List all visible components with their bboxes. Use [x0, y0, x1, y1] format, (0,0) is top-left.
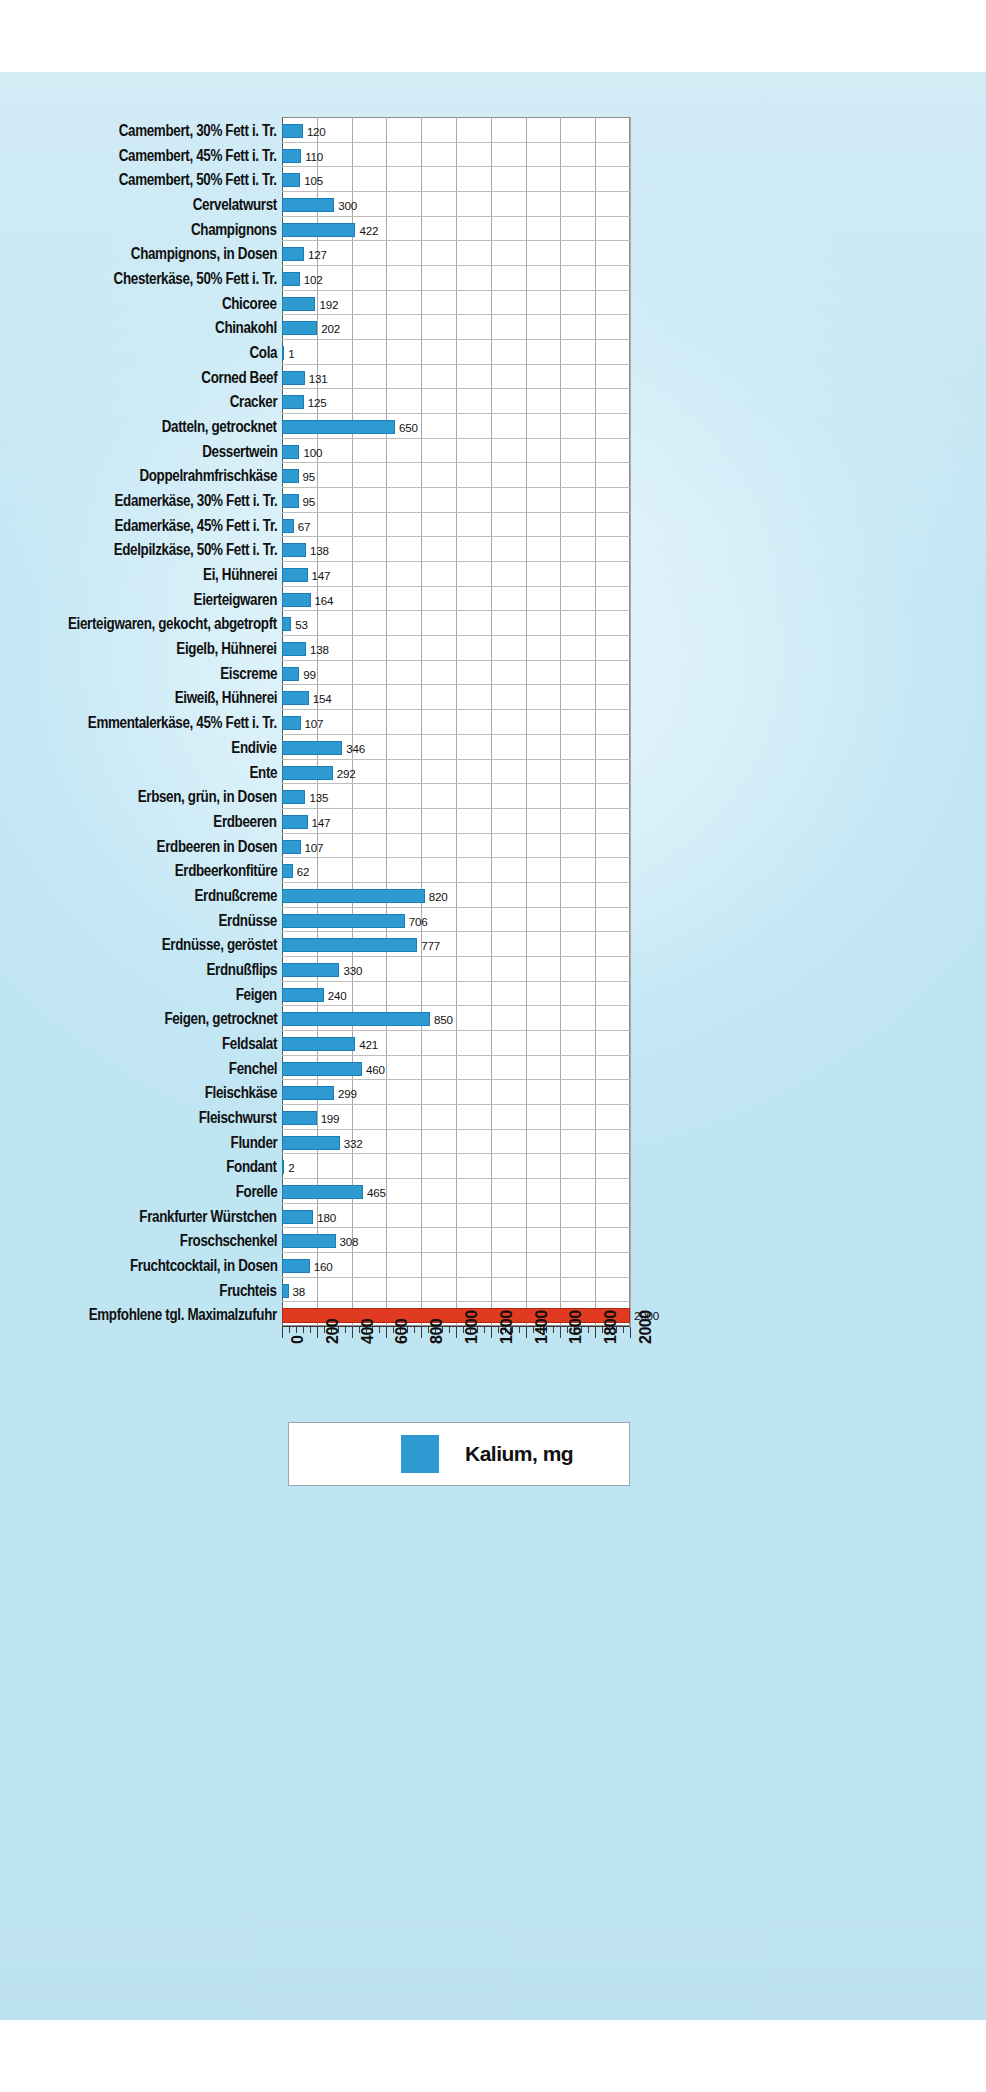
- value-bar: [282, 864, 293, 878]
- axis-tick-minor: [553, 1327, 554, 1333]
- value-bar: [282, 716, 301, 730]
- value-bar: [282, 124, 303, 138]
- value-bar: [282, 272, 300, 286]
- value-bar: [282, 1037, 355, 1051]
- legend: Kalium, mg: [288, 1422, 630, 1486]
- value-bar: [282, 988, 324, 1002]
- value-bar: [282, 1062, 362, 1076]
- x-tick-label: 1200: [498, 1310, 516, 1344]
- value-bar: [282, 642, 306, 656]
- value-bar: [282, 469, 299, 483]
- value-bar: [282, 519, 294, 533]
- value-bar: [282, 247, 304, 261]
- value-bar: [282, 667, 299, 681]
- value-bar: [282, 1185, 363, 1199]
- value-bar: [282, 321, 317, 335]
- value-bar: [282, 1086, 334, 1100]
- axis-tick-minor: [345, 1327, 346, 1333]
- value-bar: [282, 223, 355, 237]
- value-bar: [282, 963, 339, 977]
- value-bar: [282, 1210, 313, 1224]
- value-bar: [282, 1111, 317, 1125]
- value-bar: [282, 568, 308, 582]
- value-bar: [282, 617, 291, 631]
- axis-tick-minor: [414, 1327, 415, 1333]
- axis-tick-minor: [289, 1327, 290, 1333]
- x-tick-label: 1800: [602, 1310, 620, 1344]
- value-bar: [282, 494, 299, 508]
- value-bar: [282, 1160, 284, 1174]
- value-bar: [282, 1234, 336, 1248]
- value-bar: [282, 593, 311, 607]
- value-bar: [282, 1284, 289, 1298]
- value-bar: [282, 1136, 340, 1150]
- value-bar: [282, 790, 305, 804]
- legend-label-kalium: Kalium, mg: [465, 1442, 573, 1466]
- axis-tick-major: [421, 1327, 422, 1338]
- axis-tick-major: [456, 1327, 457, 1338]
- axis-tick-minor: [296, 1327, 297, 1333]
- value-bar: [282, 815, 308, 829]
- axis-tick-major: [630, 1327, 631, 1338]
- axis-tick-major: [560, 1327, 561, 1338]
- value-bar: [282, 297, 315, 311]
- value-bar: [282, 691, 309, 705]
- x-tick-label: 0: [289, 1336, 307, 1344]
- x-tick-label: 600: [393, 1319, 411, 1344]
- value-bar: [282, 445, 299, 459]
- axis-tick-major: [317, 1327, 318, 1338]
- category-label: Empfohlene tgl. Maximalzufuhr: [89, 1301, 277, 1330]
- legend-swatch-kalium: [401, 1435, 439, 1473]
- axis-tick-major: [282, 1327, 283, 1338]
- value-bar: [282, 149, 301, 163]
- axis-tick-minor: [623, 1327, 624, 1333]
- value-bar: [282, 543, 306, 557]
- axis-tick-minor: [588, 1327, 589, 1333]
- x-tick-label: 400: [359, 1319, 377, 1344]
- x-tick-label: 1600: [567, 1310, 585, 1344]
- axis-tick-major: [352, 1327, 353, 1338]
- page-root: Camembert, 30% Fett i. Tr.120Camembert, …: [0, 0, 986, 2092]
- value-bar: [282, 889, 425, 903]
- value-bar: [282, 741, 342, 755]
- value-bar: [282, 938, 417, 952]
- value-bar: [282, 766, 333, 780]
- axis-tick-minor: [379, 1327, 380, 1333]
- x-tick-label: 200: [324, 1319, 342, 1344]
- axis-tick-major: [595, 1327, 596, 1338]
- axis-tick-minor: [519, 1327, 520, 1333]
- value-bar: [282, 346, 284, 360]
- value-bar: [282, 395, 304, 409]
- kalium-bar-chart: Camembert, 30% Fett i. Tr.120Camembert, …: [0, 0, 986, 1948]
- x-tick-label: 1400: [533, 1310, 551, 1344]
- axis-tick-minor: [303, 1327, 304, 1333]
- x-tick-label: 800: [428, 1319, 446, 1344]
- x-tick-label: 2000: [637, 1310, 655, 1344]
- value-bar: [282, 840, 301, 854]
- axis-tick-minor: [449, 1327, 450, 1333]
- value-bar: [282, 173, 300, 187]
- x-tick-label: 1000: [463, 1310, 481, 1344]
- value-bar: [282, 198, 334, 212]
- value-bar: [282, 1012, 430, 1026]
- value-bar: [282, 1259, 310, 1273]
- axis-tick-major: [386, 1327, 387, 1338]
- value-bar: [282, 371, 305, 385]
- value-bar: [282, 914, 405, 928]
- axis-tick-minor: [310, 1327, 311, 1333]
- value-bar: [282, 420, 395, 434]
- axis-tick-minor: [484, 1327, 485, 1333]
- axis-tick-major: [491, 1327, 492, 1338]
- axis-tick-major: [526, 1327, 527, 1338]
